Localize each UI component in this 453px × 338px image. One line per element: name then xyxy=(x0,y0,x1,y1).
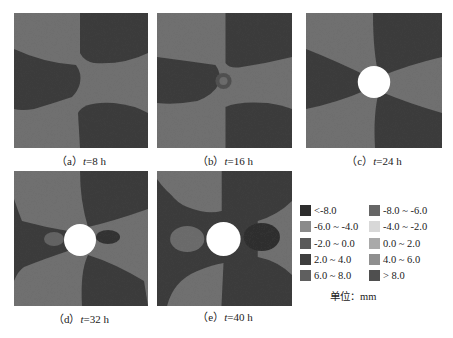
legend-swatch xyxy=(369,205,380,216)
legend-swatch xyxy=(369,221,380,232)
caption-e: （e）t=40 h xyxy=(155,308,295,324)
caption-c: （c）t=24 h xyxy=(304,152,444,168)
legend-swatch xyxy=(300,205,311,216)
legend-swatch xyxy=(369,270,380,281)
legend-item: 6.0 ~ 8.0 xyxy=(300,269,351,281)
legend-item: -6.0 ~ -4.0 xyxy=(300,220,358,232)
legend-swatch xyxy=(300,254,311,265)
caption-b: （b）t=16 h xyxy=(155,152,295,168)
panel-d-t32h xyxy=(14,171,148,306)
legend-swatch xyxy=(300,238,311,249)
legend-item: -4.0 ~ -2.0 xyxy=(369,220,427,232)
panel-a-t8h xyxy=(14,13,148,148)
panel-e-t40h xyxy=(157,171,292,306)
legend-item: <-8.0 xyxy=(300,204,337,216)
legend-swatch xyxy=(300,221,311,232)
panel-c-t24h xyxy=(306,13,442,148)
caption-a: （a）t=8 h xyxy=(11,152,151,168)
legend-swatch xyxy=(369,238,380,249)
legend-item: 2.0 ~ 4.0 xyxy=(300,253,351,265)
legend-swatch xyxy=(300,270,311,281)
legend-item: -8.0 ~ -6.0 xyxy=(369,204,427,216)
legend-swatch xyxy=(369,254,380,265)
legend-unit: 单位：mm xyxy=(330,288,376,303)
legend-item: -2.0 ~ 0.0 xyxy=(300,237,355,249)
legend-item: 0.0 ~ 2.0 xyxy=(369,237,420,249)
panel-b-t16h xyxy=(157,13,292,148)
legend-item: 4.0 ~ 6.0 xyxy=(369,253,420,265)
legend-item: > 8.0 xyxy=(369,269,405,281)
caption-d: （d）t=32 h xyxy=(11,310,151,326)
